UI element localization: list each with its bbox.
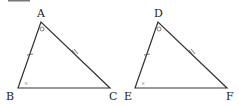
vertex-label-e: E <box>124 90 132 103</box>
triangle-abc: × A B C <box>6 7 117 103</box>
vertex-label-a: A <box>36 7 46 20</box>
vertex-label-b: B <box>6 90 14 103</box>
congruent-triangles-figure: × A B C × D E F <box>0 0 239 105</box>
triangle-def: × D E F <box>124 7 234 103</box>
side-ab-tick-mark <box>27 54 33 55</box>
angle-d-circle-mark <box>157 27 161 31</box>
vertex-label-d: D <box>154 7 163 20</box>
vertex-label-f: F <box>226 90 234 103</box>
side-de-tick-mark <box>144 54 150 55</box>
angle-a-circle-mark <box>40 27 44 31</box>
caption-remnant <box>8 0 30 2</box>
angle-e-mark: × <box>141 80 145 86</box>
vertex-label-c: C <box>109 90 117 103</box>
angle-b-mark: × <box>24 80 28 86</box>
